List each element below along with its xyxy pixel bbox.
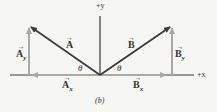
- angle-theta-left: θ: [78, 64, 82, 73]
- x-axis-label: +x: [197, 71, 206, 79]
- vector-ay-label: →Ay: [16, 49, 26, 62]
- vector-bx-label: →Bx: [133, 80, 143, 93]
- vector-a-label: →A: [66, 40, 73, 50]
- vector-by-label: →By: [175, 49, 185, 62]
- y-axis-label: +y: [96, 2, 105, 10]
- angle-theta-right: θ: [117, 64, 121, 73]
- vector-b: [100, 27, 170, 75]
- vector-b-label: →B: [128, 40, 135, 50]
- vector-ax-label: →Ax: [62, 80, 73, 93]
- figure-caption: (b): [95, 97, 104, 105]
